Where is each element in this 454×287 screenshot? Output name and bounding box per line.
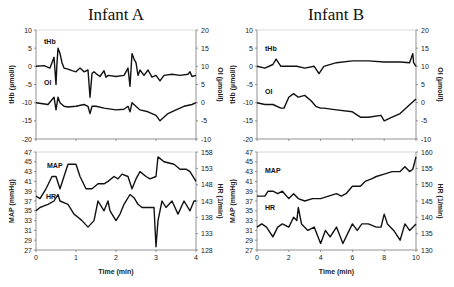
y2-tick-label: 138 xyxy=(201,214,213,221)
y-tick-label: 5 xyxy=(28,45,32,52)
y-axis-title: MAP (mmHg) xyxy=(8,179,16,223)
y-tick-label: 27 xyxy=(245,247,253,254)
x-tick-label: 0 xyxy=(34,254,38,261)
x-tick-label: 8 xyxy=(382,254,386,261)
y-tick-label: 10 xyxy=(245,27,253,34)
chart-panel-2: 4745434139373533312927158153148143138133… xyxy=(8,149,224,277)
chart-panel-3: Infant B1050-5-10-15-2020151050-5-10tHb … xyxy=(229,5,444,143)
y2-tick-label: 158 xyxy=(201,149,213,156)
trace-hr xyxy=(36,195,196,247)
y-tick-label: 35 xyxy=(24,207,32,214)
y2-tick-label: 153 xyxy=(201,165,213,172)
y-tick-label: 29 xyxy=(245,237,253,244)
y-tick-label: 39 xyxy=(245,188,253,195)
y-tick-label: 45 xyxy=(24,158,32,165)
y-tick-label: 5 xyxy=(249,45,253,52)
x-tick-label: 3 xyxy=(154,254,158,261)
y2-tick-label: -5 xyxy=(201,117,207,124)
x-tick-label: 2 xyxy=(287,254,291,261)
y2-tick-label: 20 xyxy=(201,27,209,34)
y-tick-label: -10 xyxy=(243,99,253,106)
y2-tick-label: 0 xyxy=(421,99,425,106)
y2-tick-label: 148 xyxy=(201,181,213,188)
y2-tick-label: 130 xyxy=(421,247,433,254)
y2-tick-label: 140 xyxy=(421,214,433,221)
y2-axis-title: HR (1/min) xyxy=(216,184,224,219)
y-tick-label: -5 xyxy=(247,81,253,88)
trace-oi xyxy=(36,97,196,121)
y-tick-label: 43 xyxy=(24,168,32,175)
y2-tick-label: 0 xyxy=(201,99,205,106)
y2-tick-label: 15 xyxy=(201,45,209,52)
x-axis-title: Time (min) xyxy=(319,268,354,276)
y-tick-label: 31 xyxy=(24,227,32,234)
y-tick-label: 0 xyxy=(28,63,32,70)
y2-tick-label: 15 xyxy=(421,45,429,52)
x-tick-label: 4 xyxy=(194,254,198,261)
chart-panel-4: 4745434139373533312927160155150145140135… xyxy=(229,149,444,277)
y2-tick-label: 5 xyxy=(201,81,205,88)
series-label-thb: tHb xyxy=(265,45,277,52)
series-label-hr: HR xyxy=(46,193,56,200)
y2-axis-title: OI (µmol/l) xyxy=(216,67,224,101)
y-tick-label: 10 xyxy=(24,27,32,34)
y-tick-label: -5 xyxy=(26,81,32,88)
y-tick-label: 35 xyxy=(245,207,253,214)
chart-panel-1: Infant A1050-5-10-15-2020151050-5-10tHb … xyxy=(8,5,224,143)
y-tick-label: 37 xyxy=(245,198,253,205)
y-tick-label: 37 xyxy=(24,198,32,205)
y-tick-label: -20 xyxy=(22,136,32,143)
y-tick-label: 0 xyxy=(249,63,253,70)
y2-tick-label: 5 xyxy=(421,81,425,88)
panel-title: Infant B xyxy=(308,5,364,24)
y2-tick-label: 155 xyxy=(421,165,433,172)
y-tick-label: 47 xyxy=(24,149,32,156)
x-tick-label: 2 xyxy=(114,254,118,261)
trace-thb xyxy=(257,54,416,74)
x-tick-label: 0 xyxy=(255,254,259,261)
y-tick-label: 29 xyxy=(24,237,32,244)
trace-map xyxy=(257,157,416,201)
series-label-oi: OI xyxy=(44,79,51,86)
trace-oi xyxy=(257,94,416,121)
y2-tick-label: 20 xyxy=(421,27,429,34)
y-tick-label: 43 xyxy=(245,168,253,175)
y-tick-label: 47 xyxy=(245,149,253,156)
x-tick-label: 4 xyxy=(319,254,323,261)
y-tick-label: -20 xyxy=(243,136,253,143)
y2-axis-title: OI (µmol/l) xyxy=(436,67,444,101)
y-tick-label: 27 xyxy=(24,247,32,254)
series-label-map: MAP xyxy=(47,162,63,169)
x-tick-label: 1 xyxy=(74,254,78,261)
y2-tick-label: 128 xyxy=(201,247,213,254)
y-tick-label: -10 xyxy=(22,99,32,106)
series-label-map: MAP xyxy=(265,167,281,174)
x-axis-title: Time (min) xyxy=(98,268,133,276)
y-tick-label: 39 xyxy=(24,188,32,195)
y2-tick-label: -10 xyxy=(201,136,211,143)
y2-tick-label: 10 xyxy=(201,63,209,70)
y-tick-label: 45 xyxy=(245,158,253,165)
y-tick-label: 33 xyxy=(24,217,32,224)
y-tick-label: -15 xyxy=(22,117,32,124)
y2-tick-label: 133 xyxy=(201,230,213,237)
series-label-oi: OI xyxy=(265,88,272,95)
series-label-thb: tHb xyxy=(44,38,56,45)
y2-tick-label: 150 xyxy=(421,181,433,188)
panel-title: Infant A xyxy=(88,5,145,24)
x-tick-label: 6 xyxy=(350,254,354,261)
y2-tick-label: 145 xyxy=(421,198,433,205)
y2-tick-label: -5 xyxy=(421,117,427,124)
x-tick-label: 10 xyxy=(412,254,420,261)
y2-axis-title: HR (1/min) xyxy=(436,184,444,219)
y-tick-label: -15 xyxy=(243,117,253,124)
y-tick-label: 41 xyxy=(245,178,253,185)
y-tick-label: 33 xyxy=(245,217,253,224)
trace-hr xyxy=(257,208,416,244)
y-axis-title: tHb (µmol/l) xyxy=(8,65,16,104)
figure: Infant A1050-5-10-15-2020151050-5-10tHb … xyxy=(0,0,454,287)
y-tick-label: 41 xyxy=(24,178,32,185)
y-axis-title: MAP (mmHg) xyxy=(229,179,237,223)
y2-tick-label: -10 xyxy=(421,136,431,143)
y2-tick-label: 10 xyxy=(421,63,429,70)
